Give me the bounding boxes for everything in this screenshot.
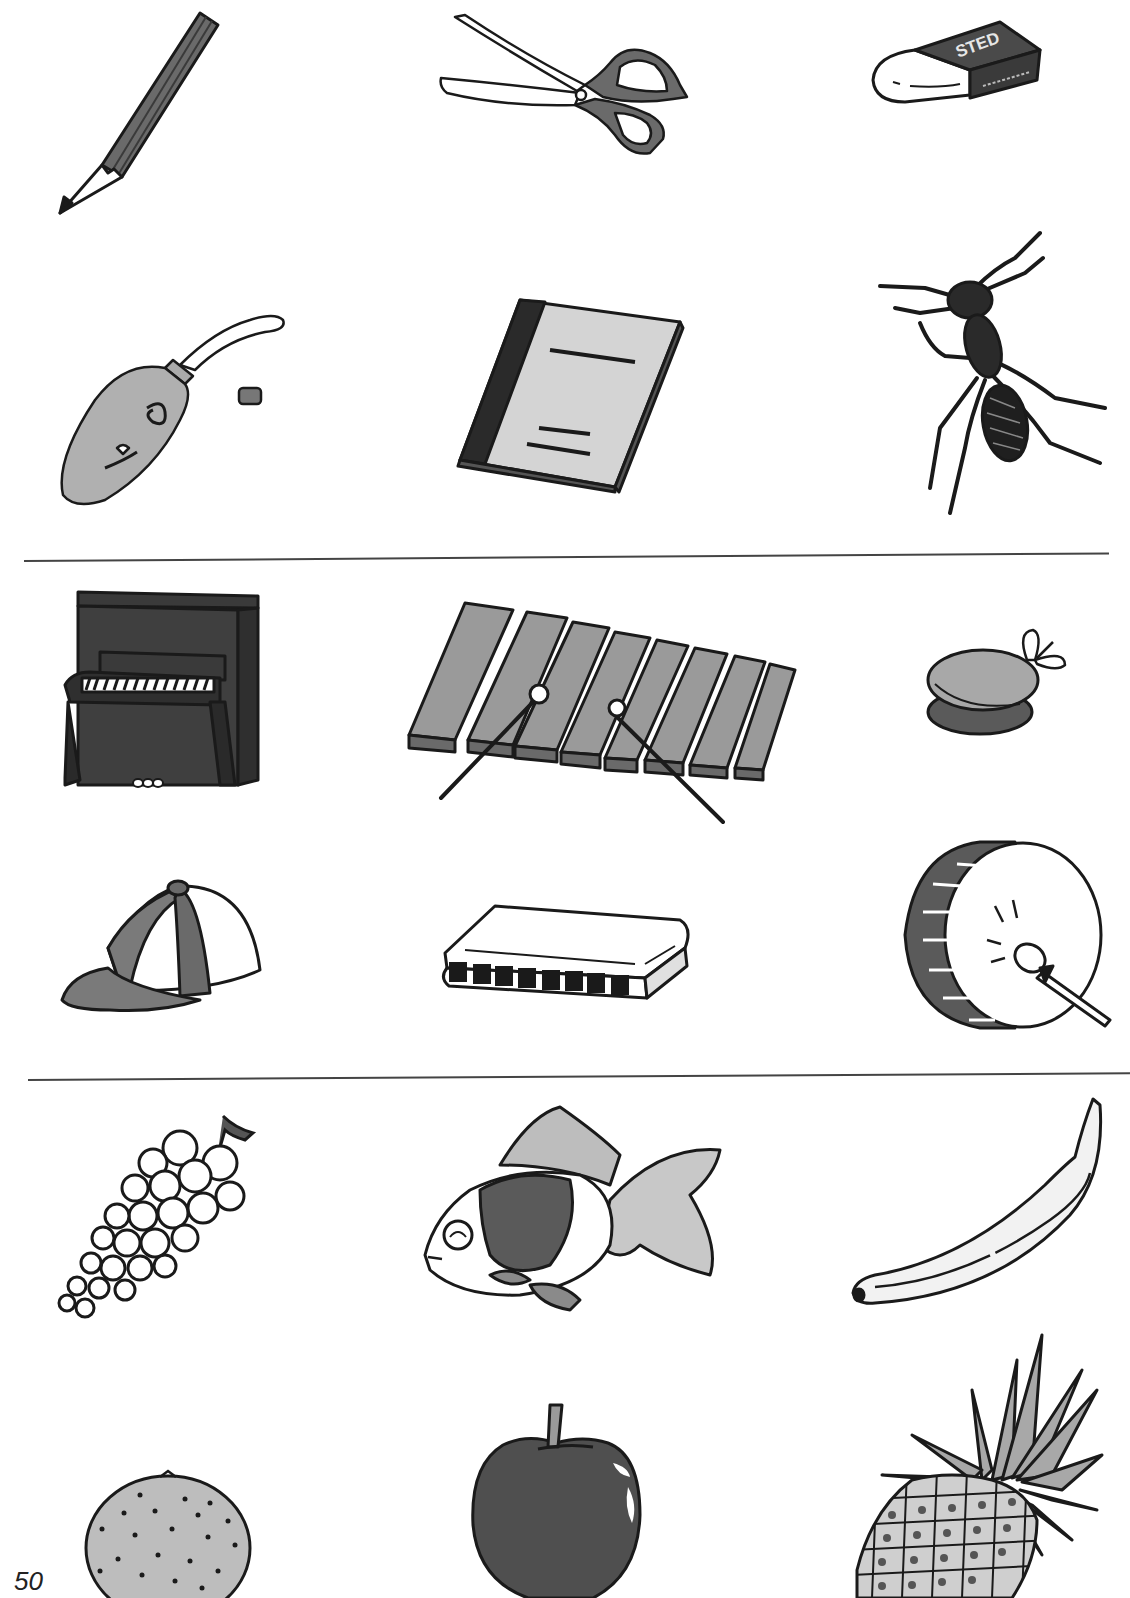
worksheet-page: pencil scissors [0, 0, 1130, 1598]
apple-icon [468, 1395, 643, 1598]
scissors-icon [435, 15, 690, 165]
cap-illustration: cap [60, 878, 265, 1013]
notebook-icon [455, 292, 685, 492]
ant-icon [875, 228, 1110, 513]
page-number: 50 [14, 1568, 43, 1594]
xylophone-icon [405, 600, 795, 825]
eraser-icon: STED [865, 10, 1045, 105]
grapes-illustration: grapes [55, 1108, 260, 1323]
eraser-illustration: eraser STED [865, 10, 1045, 105]
banana-illustration: banana [845, 1095, 1100, 1305]
piano-illustration: piano [60, 580, 265, 790]
goldfish-illustration: goldfish [420, 1105, 720, 1315]
xylophone-illustration: xylophone [405, 600, 795, 825]
drum-icon [895, 840, 1110, 1030]
apple-illustration: apple [468, 1395, 643, 1598]
goldfish-icon [420, 1105, 720, 1315]
pineapple-illustration: pineapple [852, 1330, 1102, 1598]
grapes-icon [55, 1108, 260, 1323]
ant-illustration: ant [875, 228, 1110, 513]
notebook-illustration: notebook [455, 292, 685, 492]
orange-icon [80, 1463, 255, 1598]
pineapple-icon [852, 1330, 1102, 1598]
glue-tube-icon [55, 310, 290, 510]
section-divider-2 [28, 1072, 1130, 1081]
castanets-illustration: castanets [925, 620, 1075, 735]
pencil-icon [50, 5, 230, 220]
castanets-icon [925, 620, 1075, 735]
glue-tube-illustration: glue tube [55, 310, 290, 510]
piano-icon [60, 580, 265, 790]
harmonica-illustration: harmonica [435, 898, 695, 998]
scissors-illustration: scissors [435, 15, 690, 165]
banana-icon [845, 1095, 1100, 1305]
pencil-illustration: pencil [50, 5, 230, 220]
cap-icon [60, 878, 265, 1013]
drum-illustration: drum [895, 840, 1110, 1030]
orange-illustration: orange [80, 1463, 255, 1598]
section-divider-1 [24, 552, 1109, 562]
harmonica-icon [435, 898, 695, 998]
